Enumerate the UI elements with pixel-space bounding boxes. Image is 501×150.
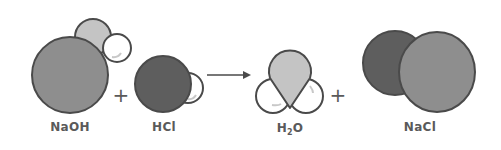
hcl-molecule [135, 56, 203, 112]
nacl-label: NaCl [404, 120, 436, 134]
sodium-atom [32, 37, 108, 113]
nacl-molecule [363, 31, 475, 112]
h2o-label-h: H [277, 121, 287, 135]
reaction-arrow [207, 71, 251, 79]
naoh-label: NaOH [50, 120, 90, 134]
sodium-atom [399, 32, 475, 112]
h2o-label: H2O [277, 121, 304, 137]
chlorine-atom [135, 56, 191, 112]
plus-sign: + [330, 85, 347, 105]
plus-sign: + [113, 85, 130, 105]
h2o-label-o: O [293, 121, 304, 135]
hcl-label: HCl [152, 120, 176, 134]
h2o-molecule [256, 51, 323, 113]
hydrogen-atom [103, 34, 131, 62]
